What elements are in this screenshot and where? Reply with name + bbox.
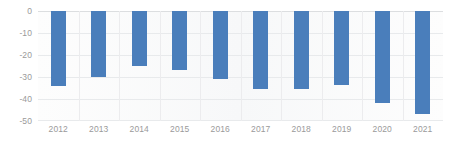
x-axis: 2012201320142015201620172018201920202021 <box>38 124 443 140</box>
y-axis: 0-10-20-30-40-50 <box>0 0 36 150</box>
x-axis-tick-label: 2016 <box>211 124 230 134</box>
bar[interactable] <box>375 11 390 103</box>
bar[interactable] <box>213 11 228 79</box>
bar[interactable] <box>294 11 309 89</box>
y-axis-tick-label: -30 <box>19 72 32 82</box>
x-axis-tick-label: 2020 <box>373 124 392 134</box>
x-axis-tick-label: 2012 <box>49 124 68 134</box>
bar[interactable] <box>415 11 430 114</box>
x-axis-tick-label: 2021 <box>413 124 432 134</box>
x-axis-tick-label: 2013 <box>89 124 108 134</box>
y-axis-tick-label: -40 <box>19 94 32 104</box>
y-axis-tick-label: -50 <box>19 116 32 126</box>
y-axis-tick-label: -20 <box>19 50 32 60</box>
bar[interactable] <box>334 11 349 85</box>
bar[interactable] <box>132 11 147 66</box>
bar[interactable] <box>91 11 106 77</box>
plot-area <box>38 11 443 121</box>
x-axis-tick-label: 2014 <box>130 124 149 134</box>
y-axis-tick-label: 0 <box>27 6 32 16</box>
y-axis-tick-label: -10 <box>19 28 32 38</box>
x-axis-tick-label: 2017 <box>251 124 270 134</box>
bar[interactable] <box>51 11 66 86</box>
x-axis-tick-label: 2015 <box>170 124 189 134</box>
bar[interactable] <box>172 11 187 70</box>
x-axis-tick-label: 2018 <box>292 124 311 134</box>
x-axis-tick-label: 2019 <box>332 124 351 134</box>
bar[interactable] <box>253 11 268 89</box>
bars-layer <box>38 11 443 121</box>
bar-chart: 0-10-20-30-40-50 20122013201420152016201… <box>0 0 451 150</box>
